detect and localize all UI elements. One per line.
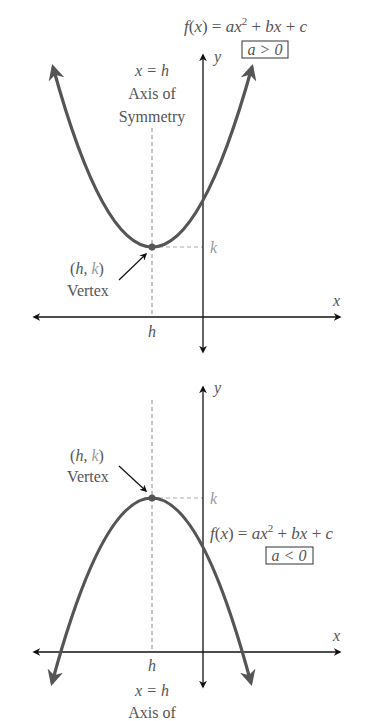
vertex-label: Vertex xyxy=(67,468,109,485)
bottom-graph: y (h, k) Vertex k f(x) = ax2 + bx + c a … xyxy=(34,379,340,721)
axis-label-line1: Axis of xyxy=(128,704,176,721)
axis-equation-label: x = h xyxy=(134,62,169,79)
x-axis-label: x xyxy=(332,292,340,309)
quadratic-diagram: f(x) = ax2 + bx + c a > 0 y x = h Axis o… xyxy=(0,0,388,721)
vertex-point xyxy=(149,244,156,251)
vertex-coord-label: (h, k) xyxy=(70,447,104,465)
top-graph: f(x) = ax2 + bx + c a > 0 y x = h Axis o… xyxy=(34,15,340,352)
x-axis-label: x xyxy=(332,627,340,644)
k-label: k xyxy=(210,239,218,256)
vertex-coord-label: (h, k) xyxy=(70,260,104,278)
vertex-pointer-arrow xyxy=(119,466,146,491)
vertex-pointer-arrow xyxy=(119,254,146,280)
equation-label: f(x) = ax2 + bx + c xyxy=(210,522,333,543)
y-axis-label: y xyxy=(212,48,222,66)
h-label: h xyxy=(148,657,156,674)
condition-label: a < 0 xyxy=(272,547,307,564)
h-label: h xyxy=(148,323,156,340)
vertex-label: Vertex xyxy=(67,282,109,299)
k-label: k xyxy=(210,490,218,507)
equation-label: f(x) = ax2 + bx + c xyxy=(184,15,307,36)
axis-label-line2: Symmetry xyxy=(119,108,186,126)
axis-label-line1: Axis of xyxy=(128,85,176,102)
axis-equation-label: x = h xyxy=(134,682,169,699)
y-axis-label: y xyxy=(212,379,222,397)
vertex-point xyxy=(149,495,156,502)
condition-label: a > 0 xyxy=(248,41,283,58)
